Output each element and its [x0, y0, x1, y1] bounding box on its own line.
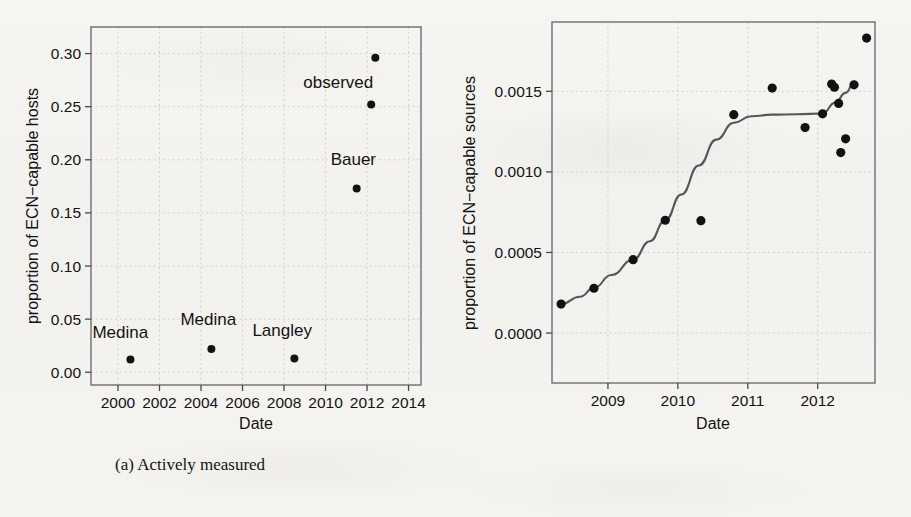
x-axis-title-b: Date [696, 415, 730, 432]
chart-passively-measured: 0.00000.00050.00100.0015 200920102011201… [455, 0, 911, 450]
trend-path [561, 82, 854, 304]
y-tick-label: 0.0015 [495, 83, 542, 100]
data-point [768, 83, 777, 92]
x-tick-label: 2006 [225, 394, 259, 411]
data-point [818, 109, 827, 118]
trend-line-b [561, 82, 854, 304]
data-point [729, 110, 738, 119]
x-tick-label: 2012 [800, 392, 834, 409]
panel-passively-measured: 0.00000.00050.00100.0015 200920102011201… [455, 0, 911, 450]
y-tick-label: 0.0010 [495, 163, 543, 180]
data-point [661, 216, 670, 225]
data-point [862, 34, 871, 43]
x-tick-label: 2008 [267, 394, 301, 411]
point-annotation: Medina [180, 310, 236, 329]
data-point [830, 83, 839, 92]
point-annotation: Medina [92, 323, 148, 342]
x-tick-label: 2004 [184, 394, 219, 411]
data-points-a [126, 54, 379, 364]
data-point [628, 255, 637, 264]
y-axis-title-b: proportion of ECN−capable sources [461, 76, 478, 330]
y-tick-label: 0.10 [51, 258, 82, 275]
point-annotation: observed [303, 73, 373, 92]
data-point [696, 216, 705, 225]
data-points-b [556, 34, 871, 309]
data-point [126, 356, 134, 364]
data-point [556, 299, 565, 308]
x-tick-label: 2002 [142, 394, 176, 411]
y-tick-label: 0.25 [51, 98, 81, 115]
y-tick-labels-b: 0.00000.00050.00100.0015 [495, 83, 543, 342]
y-tick-label: 0.0005 [495, 244, 542, 261]
plot-frame-b [552, 22, 875, 383]
y-tick-label: 0.20 [51, 151, 82, 168]
data-point [836, 148, 845, 157]
data-point [800, 123, 809, 132]
x-tick-labels-a: 20002002200420062008201020122014 [101, 394, 426, 411]
x-tick-label: 2009 [591, 392, 625, 409]
data-point [841, 134, 850, 143]
data-point [849, 80, 858, 89]
chart-actively-measured: 0.000.050.100.150.200.250.30 20002002200… [0, 0, 455, 450]
y-tick-label: 0.30 [51, 45, 82, 62]
data-point [589, 284, 598, 293]
point-annotation: Bauer [331, 150, 377, 169]
x-tick-label: 2011 [731, 392, 764, 409]
y-tick-label: 0.05 [51, 311, 81, 328]
x-tick-label: 2000 [101, 394, 136, 411]
gridlines-b [552, 22, 875, 383]
x-tick-label: 2010 [661, 392, 696, 409]
y-tick-label: 0.15 [51, 204, 81, 221]
data-point [367, 101, 375, 109]
tickmarks-b [546, 91, 818, 389]
panel-actively-measured: 0.000.050.100.150.200.250.30 20002002200… [0, 0, 455, 450]
y-tick-label: 0.00 [51, 364, 82, 381]
x-tick-label: 2012 [350, 394, 384, 411]
point-annotations-a: MedinaMedinaLangleyBauerobserved [92, 73, 376, 342]
data-point [207, 345, 215, 353]
data-point [290, 354, 298, 362]
x-tick-label: 2010 [308, 394, 343, 411]
x-axis-title-a: Date [239, 415, 273, 432]
point-annotation: Langley [252, 321, 312, 340]
x-tick-label: 2014 [391, 394, 426, 411]
x-tick-labels-b: 2009201020112012 [591, 392, 835, 409]
data-point [371, 54, 379, 62]
data-point [353, 184, 361, 192]
caption-a: (a) Actively measured [115, 455, 265, 475]
figure-container: 0.000.050.100.150.200.250.30 20002002200… [0, 0, 911, 517]
data-point [834, 99, 843, 108]
y-tick-labels-a: 0.000.050.100.150.200.250.30 [51, 45, 82, 381]
y-tick-label: 0.0000 [495, 325, 543, 342]
y-axis-title-a: proportion of ECN−capable hosts [24, 88, 41, 324]
